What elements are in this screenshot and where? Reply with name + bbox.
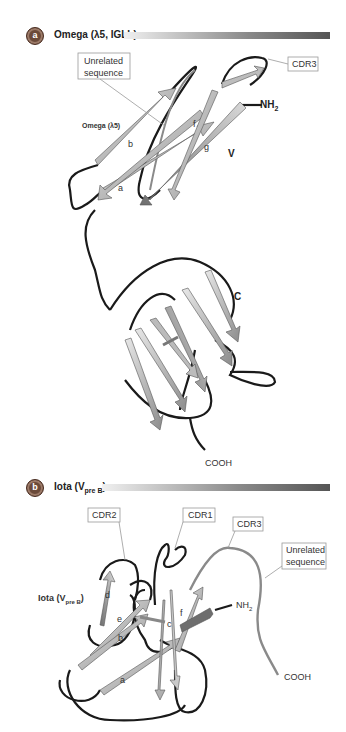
unrelated-sequence-label-b: Unrelated: [286, 545, 325, 555]
cdr3-label: CDR3: [292, 59, 317, 69]
strand-e-label: e: [117, 614, 122, 624]
panel-a-title-bar: [124, 32, 330, 39]
strand-b-label: b: [128, 139, 133, 149]
unrelated-sequence-label-b-line2: sequence: [286, 557, 325, 567]
panel-b-title-bar: [102, 484, 330, 491]
strand-f-label-b: f: [180, 608, 183, 618]
iota-ribbon-diagram: CDR2 CDR1 CDR3 Unrelated sequence Iota (…: [0, 500, 346, 732]
panel-b-title: Iota (Vpre B): [54, 481, 106, 494]
v-domain-label: V: [228, 148, 235, 159]
panel-a-badge-letter: a: [27, 30, 43, 40]
c-domain-label: C: [234, 291, 241, 302]
panel-b-header: b Iota (Vpre B): [26, 479, 330, 497]
strand-c-label: c: [167, 619, 172, 629]
unrelated-sequence-label-line2: sequence: [84, 68, 123, 78]
cooh-label: COOH: [205, 458, 232, 468]
iota-domain-label: Iota (Vpre B): [38, 593, 84, 605]
omega-ribbon-diagram: Unrelated sequence CDR3 NH2 Omega (λ5) V…: [0, 40, 346, 480]
strand-a-label-b: a: [120, 675, 125, 685]
strand-b-label-b: b: [118, 633, 123, 643]
strand-a-label: a: [118, 183, 123, 193]
cdr3-label-b: CDR3: [237, 519, 262, 529]
panel-b-badge-letter: b: [27, 482, 43, 492]
cdr1-label: CDR1: [188, 510, 213, 520]
strand-d-label: d: [105, 590, 110, 600]
unrelated-sequence-label: Unrelated: [84, 56, 123, 66]
strand-g-label: g: [204, 142, 209, 152]
nh2-label-b: NH2: [236, 600, 253, 612]
cdr2-label: CDR2: [92, 510, 117, 520]
nh2-label: NH2: [260, 99, 278, 112]
omega-domain-label: Omega (λ5): [82, 122, 120, 130]
cooh-label-b: COOH: [284, 672, 311, 682]
panel-b-badge: b: [26, 479, 44, 497]
